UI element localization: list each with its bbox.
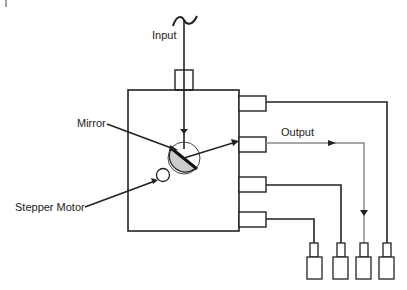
input-label: Input: [152, 29, 176, 41]
output-arrow-right-icon: [328, 140, 336, 146]
mirror-label: Mirror: [77, 117, 106, 129]
port-4-line: [266, 219, 314, 243]
input-arrow-icon: [180, 129, 188, 134]
port-4: [239, 212, 266, 227]
bottom-connector-1: [307, 243, 322, 279]
output-label: Output: [281, 126, 314, 138]
bottom-connector-2: [333, 243, 348, 279]
port-1: [239, 96, 266, 111]
port-1-line: [266, 102, 387, 243]
port-2-output-line: [266, 143, 364, 243]
stepper-pointer-line: [85, 181, 155, 207]
optical-switch-diagram: [0, 0, 407, 290]
reflected-beam-arrow-icon: [231, 139, 239, 146]
input-fiber-wave-icon: [173, 16, 197, 26]
port-3: [239, 177, 266, 192]
bottom-connector-3: [356, 243, 371, 279]
mirror-pointer-line: [107, 124, 174, 149]
mirror-shaded-half: [169, 149, 196, 172]
port-3-line: [266, 185, 341, 243]
stepper-motor-icon: [157, 169, 170, 182]
output-arrow-down-icon: [360, 210, 368, 216]
stepper-pointer-arrow-icon: [151, 178, 158, 184]
stepper-motor-label: Stepper Motor: [15, 201, 85, 213]
bottom-connector-4: [379, 243, 394, 279]
port-2: [239, 137, 266, 152]
